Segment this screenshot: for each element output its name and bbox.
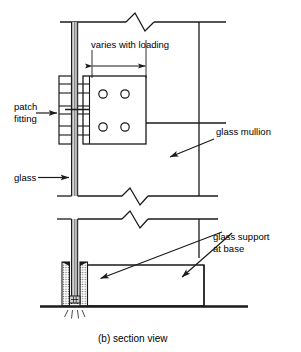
middle-break-lines <box>57 188 218 228</box>
base-anchor-marks <box>65 310 86 319</box>
bolt-hole <box>121 90 129 98</box>
section-view-drawing <box>0 0 301 352</box>
break-line-lower <box>57 211 218 228</box>
label-patch-fitting-line1: patch <box>14 101 37 113</box>
label-varies-with-loading: varies with loading <box>91 39 169 51</box>
bolt-hole <box>99 123 107 131</box>
label-glass-support-line1: glass support <box>213 231 270 243</box>
label-glass-support-line2: at base <box>213 243 244 255</box>
glass-pane-lower <box>72 219 78 304</box>
patch-fitting-plate <box>83 76 146 144</box>
figure-caption: (b) section view <box>98 333 167 345</box>
glass-support-base-block <box>86 265 204 306</box>
label-patch-fitting-line2: fitting <box>14 113 37 125</box>
leader-glass-mullion <box>170 139 214 157</box>
break-line-upper <box>57 188 218 205</box>
bolt-hole <box>121 123 129 131</box>
label-glass: glass <box>14 172 36 184</box>
bolt-hole <box>99 90 107 98</box>
top-break-line <box>60 13 226 31</box>
label-glass-mullion: glass mullion <box>216 126 271 138</box>
figure-section-view: varies with loading patch fitting glass … <box>0 0 301 352</box>
